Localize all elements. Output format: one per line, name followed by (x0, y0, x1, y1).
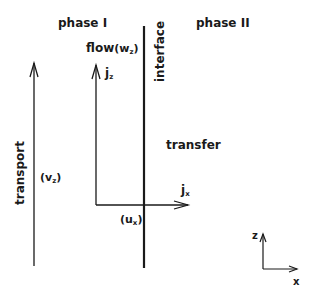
axis-x-label: x (293, 277, 299, 287)
jx-label: jx (181, 184, 190, 198)
jx-sub: x (185, 190, 190, 198)
ux-text: (u (120, 213, 133, 226)
jx-arrow (96, 201, 188, 209)
jz-label: jz (105, 67, 113, 81)
vz-close: ) (56, 171, 61, 184)
phase-2-label: phase II (196, 17, 250, 29)
transport-label: transport (14, 141, 26, 205)
transport-arrow (30, 63, 38, 266)
interface-label: interface (154, 21, 166, 82)
vz-text: (v (40, 171, 52, 184)
transfer-label: transfer (166, 139, 221, 151)
ux-label: (ux) (120, 214, 142, 227)
flow-text: flow (86, 41, 114, 55)
ux-close: ) (137, 213, 142, 226)
flow-var: (w (114, 42, 129, 55)
axis-z-label: z (252, 231, 258, 241)
coordinate-axes (260, 234, 297, 272)
flow-close: ) (134, 42, 139, 55)
vz-label: (vz) (40, 172, 61, 185)
jz-arrow (92, 65, 100, 205)
phase-1-label: phase I (58, 17, 107, 29)
jz-sub: z (109, 73, 113, 81)
flow-label: flow(wz) (86, 42, 139, 56)
